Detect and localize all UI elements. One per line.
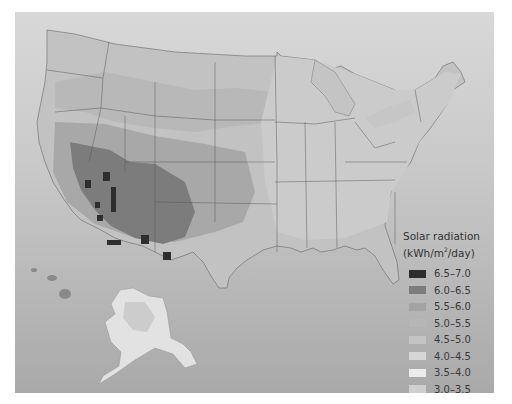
hawaii (31, 268, 71, 299)
legend-swatch (409, 369, 426, 377)
legend-item: 4.0–4.5 (403, 348, 483, 365)
legend-swatch (409, 336, 426, 344)
legend-item: 6.0–6.5 (403, 282, 483, 299)
legend-swatch (409, 270, 426, 278)
legend-item: 5.5–6.0 (403, 299, 483, 316)
legend-title: Solar radiation (kWh/m2/day) (403, 230, 483, 260)
legend-title-line1: Solar radiation (403, 230, 483, 243)
legend-item: 3.5–4.0 (403, 365, 483, 382)
legend-item: 4.5–5.0 (403, 332, 483, 349)
legend: Solar radiation (kWh/m2/day) 6.5–7.0 6.0… (403, 230, 483, 398)
legend-swatch (409, 352, 426, 360)
legend-swatch (409, 286, 426, 294)
legend-item: 3.0–3.5 (403, 381, 483, 398)
legend-swatch (409, 303, 426, 311)
legend-item: 6.5–7.0 (403, 266, 483, 283)
legend-title-line2: (kWh/m2/day) (403, 243, 483, 260)
legend-swatch (409, 385, 426, 393)
legend-item: 5.0–5.5 (403, 315, 483, 332)
legend-items: 6.5–7.0 6.0–6.5 5.5–6.0 5.0–5.5 4.5–5.0 … (403, 266, 483, 398)
legend-swatch (409, 319, 426, 327)
alaska (99, 288, 197, 384)
eastern-zone (261, 56, 461, 240)
